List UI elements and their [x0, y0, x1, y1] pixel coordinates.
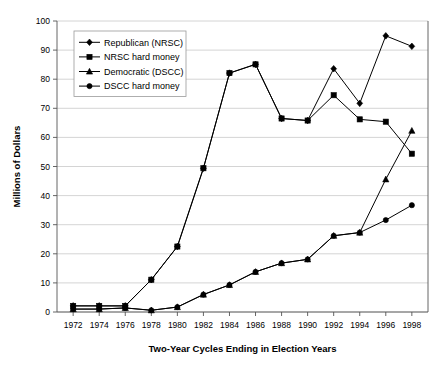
series-polyline — [73, 131, 412, 311]
chart-container: 0102030405060708090100 19721974197619781… — [0, 0, 439, 370]
data-point-marker — [305, 257, 310, 262]
y-tick-label: 30 — [41, 220, 51, 230]
data-point-marker — [409, 203, 414, 208]
legend-entry-label: Republican (NRSC) — [104, 38, 183, 48]
series-democratic-dscc — [70, 128, 415, 313]
x-tick-label: 1980 — [168, 320, 187, 330]
data-point-marker — [279, 261, 284, 266]
data-point-marker — [409, 151, 414, 156]
series-nrsc-hard-money — [71, 62, 415, 309]
data-point-marker — [305, 118, 310, 123]
data-point-marker — [331, 233, 336, 238]
y-tick-label: 0 — [45, 307, 50, 317]
y-tick-label: 70 — [41, 103, 51, 113]
x-axis-title: Two-Year Cycles Ending in Election Years — [148, 343, 336, 354]
data-point-marker — [357, 117, 362, 122]
data-point-marker — [227, 70, 232, 75]
data-point-marker — [201, 292, 206, 297]
x-tick-label: 1984 — [220, 320, 239, 330]
chart-canvas: 0102030405060708090100 19721974197619781… — [0, 0, 439, 370]
x-tick-label: 1988 — [272, 320, 291, 330]
chart-legend: Republican (NRSC)NRSC hard moneyDemocrat… — [74, 31, 186, 96]
x-tick-label: 1974 — [90, 320, 109, 330]
data-point-marker — [383, 33, 389, 40]
legend-entry-label: DSCC hard money — [104, 81, 180, 91]
y-tick-label: 90 — [41, 45, 51, 55]
x-tick-label: 1992 — [324, 320, 343, 330]
x-axis-tick-labels: 1972197419761978198019821984198619881990… — [64, 312, 422, 330]
data-point-marker — [331, 93, 336, 98]
data-point-marker — [253, 62, 258, 67]
data-point-marker — [227, 282, 232, 287]
x-tick-label: 1986 — [246, 320, 265, 330]
y-tick-label: 10 — [41, 278, 51, 288]
data-point-marker — [71, 306, 76, 311]
data-point-marker — [201, 166, 206, 171]
y-tick-label: 60 — [41, 132, 51, 142]
x-tick-label: 1976 — [116, 320, 135, 330]
data-point-marker — [149, 277, 154, 282]
y-tick-label: 100 — [36, 16, 50, 26]
legend-entry-label: NRSC hard money — [104, 52, 180, 62]
data-point-marker — [357, 230, 362, 235]
legend-marker — [87, 84, 92, 89]
data-point-marker — [409, 128, 415, 134]
data-point-marker — [383, 119, 388, 124]
y-tick-label: 50 — [41, 162, 51, 172]
series-polyline — [73, 205, 412, 310]
x-tick-label: 1982 — [194, 320, 213, 330]
x-tick-label: 1996 — [376, 320, 395, 330]
x-tick-label: 1978 — [142, 320, 161, 330]
x-tick-label: 1990 — [298, 320, 317, 330]
data-point-marker — [175, 244, 180, 249]
line-chart: 0102030405060708090100 19721974197619781… — [0, 0, 439, 370]
x-tick-label: 1998 — [402, 320, 421, 330]
data-point-marker — [175, 304, 180, 309]
y-tick-label: 20 — [41, 249, 51, 259]
data-point-marker — [149, 308, 154, 313]
y-axis-title: Millions of Dollars — [11, 126, 22, 208]
series-dscc-hard-money — [71, 203, 415, 313]
data-point-marker — [253, 269, 258, 274]
legend-marker — [87, 54, 92, 59]
data-point-marker — [123, 305, 128, 310]
data-point-marker — [279, 116, 284, 121]
legend-entry-label: Democratic (DSCC) — [104, 67, 184, 77]
data-point-marker — [383, 176, 389, 182]
data-point-marker — [97, 306, 102, 311]
x-tick-label: 1972 — [64, 320, 83, 330]
y-tick-label: 40 — [41, 191, 51, 201]
y-tick-label: 80 — [41, 74, 51, 84]
y-axis-tick-labels: 0102030405060708090100 — [36, 16, 57, 317]
x-tick-label: 1994 — [350, 320, 369, 330]
data-point-marker — [409, 43, 415, 50]
data-point-marker — [383, 217, 388, 222]
